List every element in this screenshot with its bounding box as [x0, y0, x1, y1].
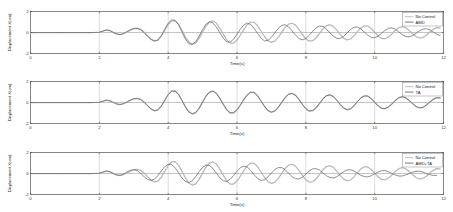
- x-tick-label: 8: [305, 125, 308, 130]
- x-axis-title: Time(s): [230, 61, 245, 66]
- x-tick-label: 4: [167, 55, 170, 60]
- x-tick-label: 10: [372, 55, 377, 60]
- y-tick-label: 2: [26, 150, 29, 155]
- x-tick-label: 6: [236, 55, 239, 60]
- y-tick-label: 0: [26, 171, 29, 176]
- x-tick-label: 0: [29, 196, 32, 201]
- x-tick-label: 2: [98, 55, 101, 60]
- chart-panel-ta: 024681012Time(s)-202Displacement X(cm)No…: [0, 70, 453, 140]
- x-tick-label: 4: [167, 196, 170, 201]
- x-tick-label: 2: [98, 196, 101, 201]
- legend: No ControlTA: [403, 83, 443, 97]
- legend: No ControlAMD+TA: [403, 154, 443, 168]
- legend-label: No Control: [416, 84, 436, 89]
- legend-label: No Control: [416, 14, 436, 19]
- x-tick-label: 8: [305, 55, 308, 60]
- x-tick-label: 8: [305, 196, 308, 201]
- y-tick-label: 2: [26, 9, 29, 14]
- y-tick-label: -2: [25, 192, 29, 197]
- y-axis-title: Displacement X(cm): [7, 13, 12, 51]
- plot-svg: 024681012Time(s)-202Displacement X(cm)No…: [0, 70, 453, 140]
- plot-svg: 024681012Time(s)-202Displacement X(cm)No…: [0, 141, 453, 211]
- legend-label: No Control: [416, 155, 436, 160]
- x-tick-label: 6: [236, 125, 239, 130]
- legend-label: TA: [416, 90, 421, 95]
- x-axis-title: Time(s): [230, 131, 245, 136]
- plot-svg: 024681012Time(s)-202Displacement X(cm)No…: [0, 0, 453, 70]
- legend-label: AMD+TA: [416, 161, 433, 166]
- x-tick-label: 10: [372, 125, 377, 130]
- y-tick-label: 2: [26, 79, 29, 84]
- x-tick-label: 4: [167, 125, 170, 130]
- x-tick-label: 6: [236, 196, 239, 201]
- chart-panel-amd: 024681012Time(s)-202Displacement X(cm)No…: [0, 0, 453, 70]
- x-tick-label: 10: [372, 196, 377, 201]
- x-tick-label: 12: [441, 125, 446, 130]
- y-tick-label: 0: [26, 30, 29, 35]
- y-tick-label: -2: [25, 51, 29, 56]
- y-tick-label: 0: [26, 100, 29, 105]
- multi-panel-figure: 024681012Time(s)-202Displacement X(cm)No…: [0, 0, 453, 212]
- y-axis-title: Displacement X(cm): [7, 83, 12, 121]
- x-axis-title: Time(s): [230, 202, 245, 207]
- legend: No ControlAMD: [403, 13, 443, 27]
- y-tick-label: -2: [25, 121, 29, 126]
- x-tick-label: 2: [98, 125, 101, 130]
- x-tick-label: 12: [441, 196, 446, 201]
- y-axis-title: Displacement X(cm): [7, 154, 12, 192]
- x-tick-label: 0: [29, 125, 32, 130]
- chart-panel-amd-ta: 024681012Time(s)-202Displacement X(cm)No…: [0, 141, 453, 211]
- x-tick-label: 12: [441, 55, 446, 60]
- legend-label: AMD: [416, 20, 425, 25]
- x-tick-label: 0: [29, 55, 32, 60]
